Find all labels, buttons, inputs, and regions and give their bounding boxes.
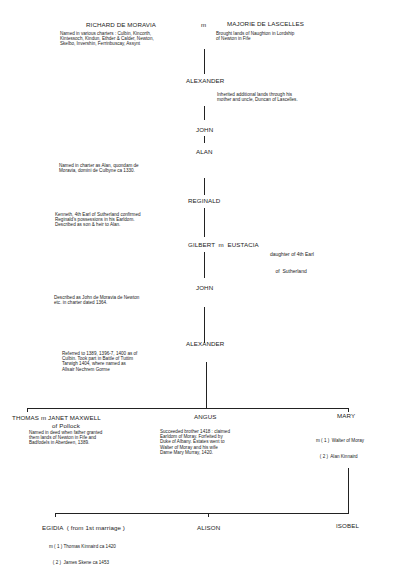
- alan-name: ALAN: [196, 148, 213, 155]
- mary-note: m ( 1 ) Walter of Moray ( 2 ) Alan Kinna…: [316, 428, 364, 464]
- alison-name: ALISON: [197, 524, 220, 531]
- john-2-name: JOHN: [196, 284, 213, 291]
- tick-thomas: [27, 408, 28, 412]
- descent-line-7: [204, 307, 205, 343]
- descent-line-4: [204, 178, 205, 195]
- thomas-janet-maxwell-name: THOMAS m JANET MAXWELL: [12, 414, 101, 421]
- descent-line-mary: [348, 468, 349, 513]
- tick-egidia: [55, 513, 56, 517]
- angus-name: ANGUS: [194, 413, 217, 420]
- richard-de-moravia-name: RICHARD DE MORAVIA: [86, 21, 156, 28]
- majorie-de-lascelles-name: MAJORIE DE LASCELLES: [227, 20, 304, 27]
- reginald-name: REGINALD: [188, 197, 220, 204]
- majorie-de-lascelles-note: Brought lands of Naughton in Lordship of…: [216, 31, 294, 41]
- descent-line-6: [204, 252, 205, 278]
- descent-line-8: [206, 362, 207, 408]
- alexander-1-note: Inherited additional lands through his m…: [217, 92, 298, 102]
- mary-name: MARY: [337, 412, 355, 419]
- descent-line-5: [204, 208, 205, 237]
- egidia-note: m ( 1 ) Thomas Kinnaird ca 1420 ( 2 ) Ja…: [49, 534, 116, 566]
- angus-note: Succeeded brother 1418 : claimed Earldom…: [160, 429, 230, 455]
- richard-de-moravia-note: Named in various charters : Culbin, Kinc…: [60, 31, 154, 47]
- alexander-2-note: Referred to 1389, 1396-7, 1400 as of Cul…: [62, 351, 137, 372]
- alan-note: Named in charter as Alan, quondam de Mor…: [59, 163, 139, 173]
- descent-line-3: [204, 136, 205, 143]
- john-1-name: JOHN: [196, 126, 213, 133]
- descent-line-2: [204, 106, 205, 120]
- janet-maxwell-subname: of Pollock: [52, 422, 80, 429]
- descent-line-1: [204, 49, 205, 74]
- alexander-2-name: ALEXANDER: [186, 340, 224, 347]
- egidia-name: EGIDIA ( from 1st marriage ): [42, 524, 125, 531]
- sibling-bar-gen9: [27, 408, 349, 409]
- john-2-note: Described as John de Moravia de Newton e…: [54, 295, 139, 305]
- reginald-note: Kenneth, 4th Earl of Sutherland confirme…: [55, 212, 141, 228]
- gilbert-eustacia-name: GILBERT m EUSTACIA: [188, 241, 259, 248]
- thomas-note: Named in deed when father granted them l…: [29, 430, 102, 446]
- eustacia-note: daughter of 4th Earl of Sutherland: [270, 240, 314, 281]
- sibling-bar-gen10: [55, 513, 349, 514]
- tick-alison: [208, 513, 209, 517]
- isobel-name: ISOBEL: [336, 522, 359, 529]
- alexander-1-name: ALEXANDER: [186, 77, 224, 84]
- marriage-symbol: m: [201, 21, 206, 28]
